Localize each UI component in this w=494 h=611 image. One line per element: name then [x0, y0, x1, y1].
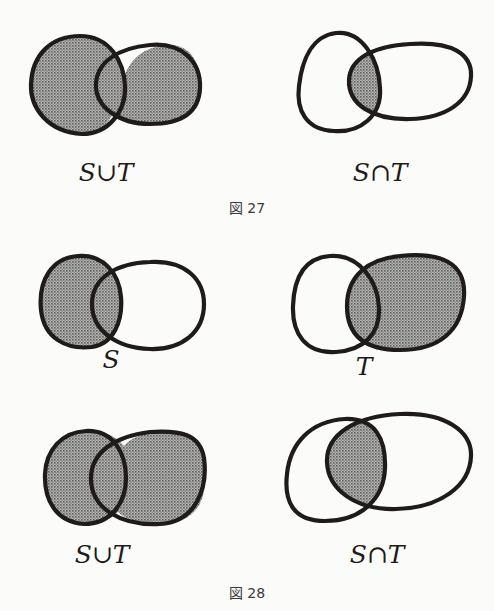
fig28-intersection-diagram: [286, 414, 471, 521]
fig28-union-label: S∪T: [75, 540, 130, 569]
fig28-set-s-diagram: [41, 256, 204, 349]
fig28-union-diagram: [45, 431, 205, 524]
fig28-set-t-label: T: [356, 352, 373, 381]
venn-diagrams-canvas: [0, 0, 494, 611]
fig27-union-label: S∪T: [79, 158, 134, 187]
fig27-caption: 図 27: [229, 197, 265, 217]
fig27-union-diagram: [31, 36, 200, 134]
fig28-intersection-label: S∩T: [350, 540, 405, 569]
fig28-set-t-diagram: [293, 255, 464, 352]
fig28-caption: 図 28: [229, 582, 265, 602]
fig27-intersection-diagram: [298, 33, 471, 131]
fig28-set-s-label: S: [102, 345, 119, 374]
fig27-intersection-label: S∩T: [353, 158, 408, 187]
